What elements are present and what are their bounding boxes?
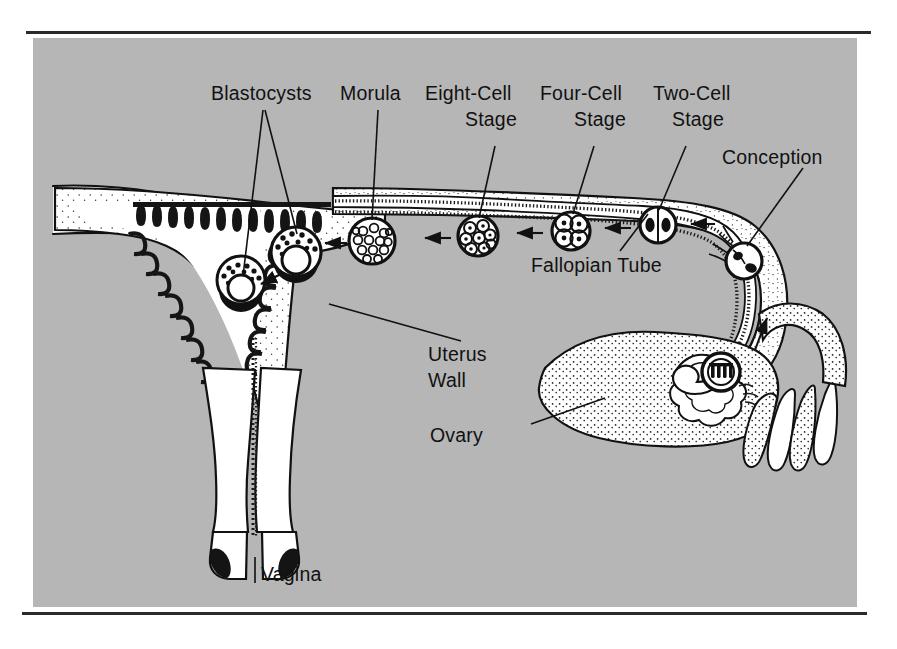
- label-uterus-wall-line2: Wall: [428, 369, 466, 391]
- cervix-body-right: [255, 368, 301, 532]
- anatomy-diagram: Blastocysts Morula Eight-Cell Stage Four…: [33, 38, 857, 607]
- label-two-cell-line2: Stage: [672, 108, 724, 130]
- stage-morula: [349, 218, 395, 264]
- top-horizontal-rule: [26, 31, 871, 34]
- stage-ovum-release: [702, 353, 740, 391]
- stage-two-cell: [640, 207, 676, 243]
- cervix-body: [203, 368, 255, 532]
- label-eight-cell: Eight-Cell: [425, 82, 512, 104]
- label-fallopian-tube: Fallopian Tube: [531, 254, 662, 276]
- stage-blastocyst-implanted: [217, 256, 265, 312]
- label-eight-cell-line2: Stage: [465, 108, 517, 130]
- label-two-cell: Two-Cell: [653, 82, 730, 104]
- label-morula: Morula: [340, 82, 401, 104]
- label-blastocysts: Blastocysts: [211, 82, 312, 104]
- uterus-group: [53, 180, 385, 579]
- stage-eight-cell: [458, 216, 498, 256]
- label-four-cell-line2: Stage: [574, 108, 626, 130]
- ovary-group: [539, 332, 778, 447]
- label-conception: Conception: [722, 146, 823, 168]
- flow-arrows: [261, 224, 767, 350]
- fimbria-4: [814, 378, 837, 465]
- label-uterus-wall: Uterus: [428, 343, 487, 365]
- label-ovary: Ovary: [430, 424, 483, 446]
- label-four-cell: Four-Cell: [540, 82, 622, 104]
- leader-uterus-wall: [329, 304, 461, 341]
- leader-conception: [747, 168, 803, 246]
- diagram-plate: Blastocysts Morula Eight-Cell Stage Four…: [33, 38, 857, 607]
- label-vagina: Vagina: [261, 563, 321, 585]
- bottom-horizontal-rule: [22, 612, 867, 615]
- stage-four-cell: [552, 212, 590, 250]
- figure-page: Blastocysts Morula Eight-Cell Stage Four…: [0, 0, 897, 649]
